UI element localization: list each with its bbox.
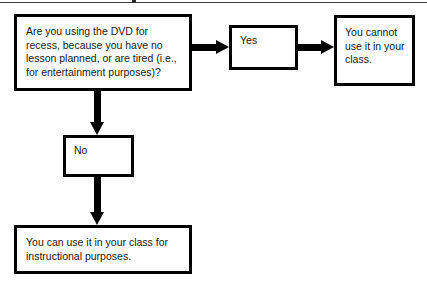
branch-node-no: No: [63, 135, 134, 177]
top-edge-rule: [0, 2, 427, 3]
outcome-node-can-use-label: You can use it in your class for instruc…: [26, 236, 181, 263]
arrow-no-to-can-use: [94, 177, 101, 225]
arrow-shaft: [94, 177, 101, 213]
arrow-question-to-yes: [192, 44, 229, 51]
arrow-yes-to-cannot-use: [298, 44, 334, 51]
top-edge-tick-mark: [132, 0, 136, 3]
arrow-head-down-icon: [90, 122, 104, 135]
arrow-shaft: [94, 91, 101, 123]
outcome-node-cannot-use: You cannot use it in your class.: [334, 15, 415, 86]
arrow-head-down-icon: [90, 212, 104, 225]
outcome-node-cannot-use-label: You cannot use it in your class.: [345, 26, 412, 67]
decision-node-question: Are you using the DVD for recess, becaus…: [14, 14, 192, 91]
decision-node-question-label: Are you using the DVD for recess, becaus…: [26, 25, 181, 79]
branch-node-yes: Yes: [229, 25, 298, 70]
branch-node-yes-label: Yes: [240, 34, 295, 48]
arrow-shaft: [192, 44, 217, 51]
arrow-head-right-icon: [321, 40, 334, 54]
arrow-head-right-icon: [216, 40, 229, 54]
arrow-question-to-no: [94, 91, 101, 135]
outcome-node-can-use: You can use it in your class for instruc…: [14, 225, 192, 274]
flowchart-canvas: Are you using the DVD for recess, becaus…: [0, 0, 427, 290]
arrow-shaft: [298, 44, 322, 51]
branch-node-no-label: No: [74, 144, 131, 158]
